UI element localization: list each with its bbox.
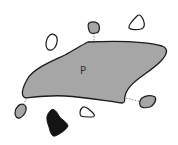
diagram-canvas: P <box>0 0 178 145</box>
obstacle-bottom-white <box>80 107 94 117</box>
obstacle-right-gray <box>140 96 156 108</box>
main-polygon-p <box>22 41 166 103</box>
obstacle-left-white <box>46 34 57 50</box>
polygon-label: P <box>80 65 86 76</box>
obstacle-bottom-left-gray <box>15 104 26 118</box>
obstacle-bottom-black <box>47 109 68 136</box>
obstacle-top-gray <box>88 22 99 33</box>
obstacle-top-right-white <box>129 15 144 30</box>
